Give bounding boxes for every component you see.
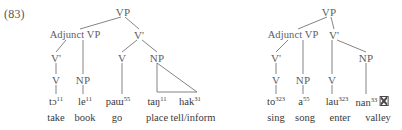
left-gloss-1: take bbox=[47, 112, 65, 123]
left-terminal-ipa-5: hak31 bbox=[179, 96, 201, 107]
right-gloss-3: enter bbox=[330, 112, 351, 123]
left-node-vp-root: VP bbox=[116, 6, 130, 18]
right-terminal-ipa-3-base: lau bbox=[326, 96, 339, 107]
left-gloss-3: go bbox=[112, 112, 123, 123]
left-terminal-tone-5: 31 bbox=[194, 95, 201, 102]
left-branch-vbar-to-v bbox=[122, 40, 137, 52]
right-node-adjunct-v: V bbox=[272, 74, 280, 86]
right-terminal-tone-3: 323 bbox=[338, 95, 348, 102]
left-gloss-4: place bbox=[146, 112, 168, 123]
left-np-triangle bbox=[157, 63, 197, 92]
left-node-main-v: V bbox=[118, 52, 126, 64]
left-terminal-ipa-4: taŋ11 bbox=[147, 96, 166, 107]
left-terminal-ipa-3-base: paɯ bbox=[106, 96, 124, 107]
right-terminal-ipa-1: to323 bbox=[267, 96, 285, 107]
left-terminal-tone-2: 11 bbox=[86, 95, 92, 102]
right-terminal-tone-1: 323 bbox=[275, 95, 285, 102]
right-terminal-ipa-3: lau323 bbox=[326, 96, 349, 107]
left-terminal-ipa-3: paɯ55 bbox=[106, 96, 131, 107]
left-node-adjunct-vp: Adjunct VP bbox=[50, 29, 101, 40]
right-terminal-tone-2: 55 bbox=[303, 95, 310, 102]
left-node-v-bar-main: V' bbox=[134, 29, 144, 41]
left-terminal-ipa-1: tɔ11 bbox=[49, 96, 63, 107]
left-node-adjunct-np: NP bbox=[76, 74, 90, 86]
right-branch-vbar-to-np bbox=[337, 40, 366, 52]
right-node-main-np: NP bbox=[359, 52, 373, 64]
right-node-main-v: V bbox=[328, 74, 336, 86]
right-terminal-tone-4: 33 bbox=[371, 96, 378, 103]
left-gloss-2: book bbox=[75, 112, 96, 123]
right-node-adjunct-vp: Adjunct VP bbox=[268, 29, 319, 40]
figure-container: (83) bbox=[0, 0, 402, 130]
left-terminal-tone-1: 11 bbox=[57, 95, 63, 102]
right-node-v-bar-main: V' bbox=[329, 29, 339, 41]
left-terminal-tone-4: 11 bbox=[160, 95, 166, 102]
right-terminal-ipa-1-base: to bbox=[267, 96, 275, 107]
left-node-adjunct-v-bar: V' bbox=[51, 52, 61, 64]
missing-glyph-box bbox=[379, 96, 388, 106]
right-gloss-1: sing bbox=[267, 112, 285, 123]
left-branch-vp-to-adjunct bbox=[80, 17, 121, 29]
left-terminal-ipa-5-base: hak bbox=[179, 96, 194, 107]
right-node-adjunct-np: NP bbox=[296, 74, 310, 86]
left-terminal-ipa-4-base: taŋ bbox=[147, 96, 160, 107]
right-terminal-ipa-4-base: nan bbox=[356, 97, 371, 108]
left-terminal-tone-3: 55 bbox=[124, 95, 131, 102]
right-gloss-2: song bbox=[295, 112, 315, 123]
right-branch-vp-to-vbar bbox=[331, 17, 334, 29]
right-gloss-4: valley bbox=[365, 112, 391, 123]
left-branch-adjunct-to-vbar bbox=[56, 40, 66, 52]
left-node-main-np: NP bbox=[150, 52, 164, 64]
right-branch-adjunct-to-vbar bbox=[276, 40, 288, 52]
left-terminal-ipa-2: le11 bbox=[78, 96, 92, 107]
right-terminal-ipa-4: nan33 bbox=[356, 96, 389, 108]
left-node-adjunct-v: V bbox=[52, 74, 60, 86]
right-branch-vp-to-adjunct bbox=[298, 17, 327, 29]
right-node-vp-root: VP bbox=[322, 6, 336, 18]
left-terminal-ipa-2-base: le bbox=[78, 96, 86, 107]
left-gloss-5: tell/inform bbox=[171, 112, 216, 123]
right-node-adjunct-v-bar: V' bbox=[271, 52, 281, 64]
tree-branch-lines bbox=[0, 0, 402, 130]
left-branch-vp-to-vbar bbox=[125, 17, 139, 29]
left-terminal-ipa-1-base: tɔ bbox=[49, 96, 57, 107]
left-branch-vbar-to-np bbox=[142, 40, 157, 52]
right-terminal-ipa-2: a55 bbox=[298, 96, 309, 107]
